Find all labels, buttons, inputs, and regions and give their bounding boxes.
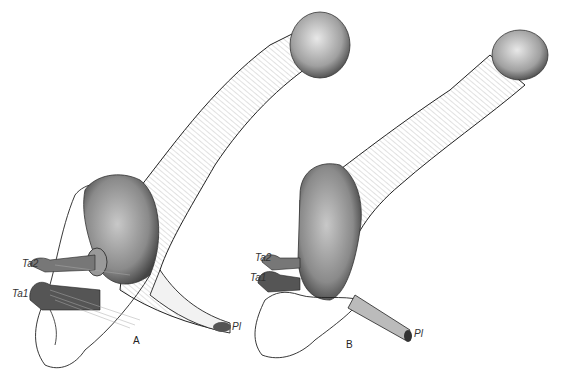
label-pl-b: Pl [414,328,423,339]
panel-label-b: B [346,339,353,350]
label-ta1-a: Ta1 [12,288,28,299]
panel-label-a: A [133,335,140,346]
label-pl-a: Pl [232,321,241,332]
anatomical-illustration [0,0,568,378]
view-b-bone [255,30,548,358]
label-ta1-b: Ta1 [250,272,266,283]
label-ta2-b: Ta2 [255,252,271,263]
pl-rod-b [348,295,410,340]
pl-end-a [213,322,231,332]
label-ta2-a: Ta2 [22,258,38,269]
bone-head-a [290,12,350,78]
bone-head-b [492,30,548,80]
